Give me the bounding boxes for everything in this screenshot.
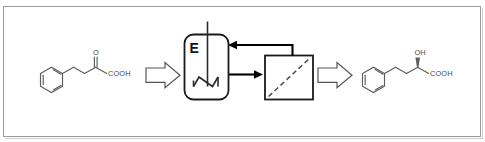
product-hydroxyl-stereobond: OH	[415, 48, 426, 67]
substrate-structure: O COOH	[41, 48, 131, 93]
substrate-carboxyl-label: COOH	[108, 69, 131, 78]
product-block-arrow	[318, 63, 352, 88]
substrate-benzene-ring	[41, 67, 63, 92]
product-structure: OH COOH	[363, 48, 453, 93]
product-benzene-ring	[363, 67, 385, 92]
arrowhead-right	[254, 70, 263, 78]
product-hydroxyl-label: OH	[415, 48, 426, 57]
feed-block-arrow	[146, 63, 180, 88]
product-carbon-chain	[385, 67, 429, 73]
enzyme-reactor: E	[185, 22, 229, 100]
reactor-label: E	[190, 40, 199, 56]
recycle-stream	[228, 41, 293, 56]
substrate-carbon-chain	[63, 67, 107, 73]
substrate-carbonyl: O	[93, 48, 99, 68]
substrate-carbonyl-oxygen-label: O	[93, 48, 99, 57]
membrane-separator	[265, 56, 313, 100]
process-flow-figure: O COOH E	[0, 0, 485, 142]
reactor-to-separator-arrow	[229, 70, 263, 78]
diagram-canvas: O COOH E	[0, 0, 485, 142]
product-carboxyl-label: COOH	[430, 69, 453, 78]
